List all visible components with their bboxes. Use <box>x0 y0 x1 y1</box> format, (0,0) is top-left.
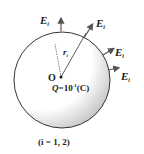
field-arrow-right-1 <box>103 49 113 55</box>
caption: (i = 1, 2) <box>38 137 70 147</box>
gauss-sphere-diagram: Ei Ei Ei Ei ri O Q=10-1(C) (i = 1, 2) <box>0 0 144 154</box>
center-label: O <box>48 72 56 83</box>
field-arrow-diag <box>84 25 92 38</box>
field-arrow-right-2 <box>108 68 118 70</box>
field-label-diag: Ei <box>95 17 105 30</box>
charge-label: Q=10-1(C) <box>52 83 89 93</box>
gaussian-sphere <box>14 32 110 128</box>
center-point <box>60 76 63 79</box>
field-label-top: Ei <box>39 14 49 27</box>
field-label-right-1: Ei <box>114 46 124 59</box>
field-label-right-2: Ei <box>120 70 130 83</box>
